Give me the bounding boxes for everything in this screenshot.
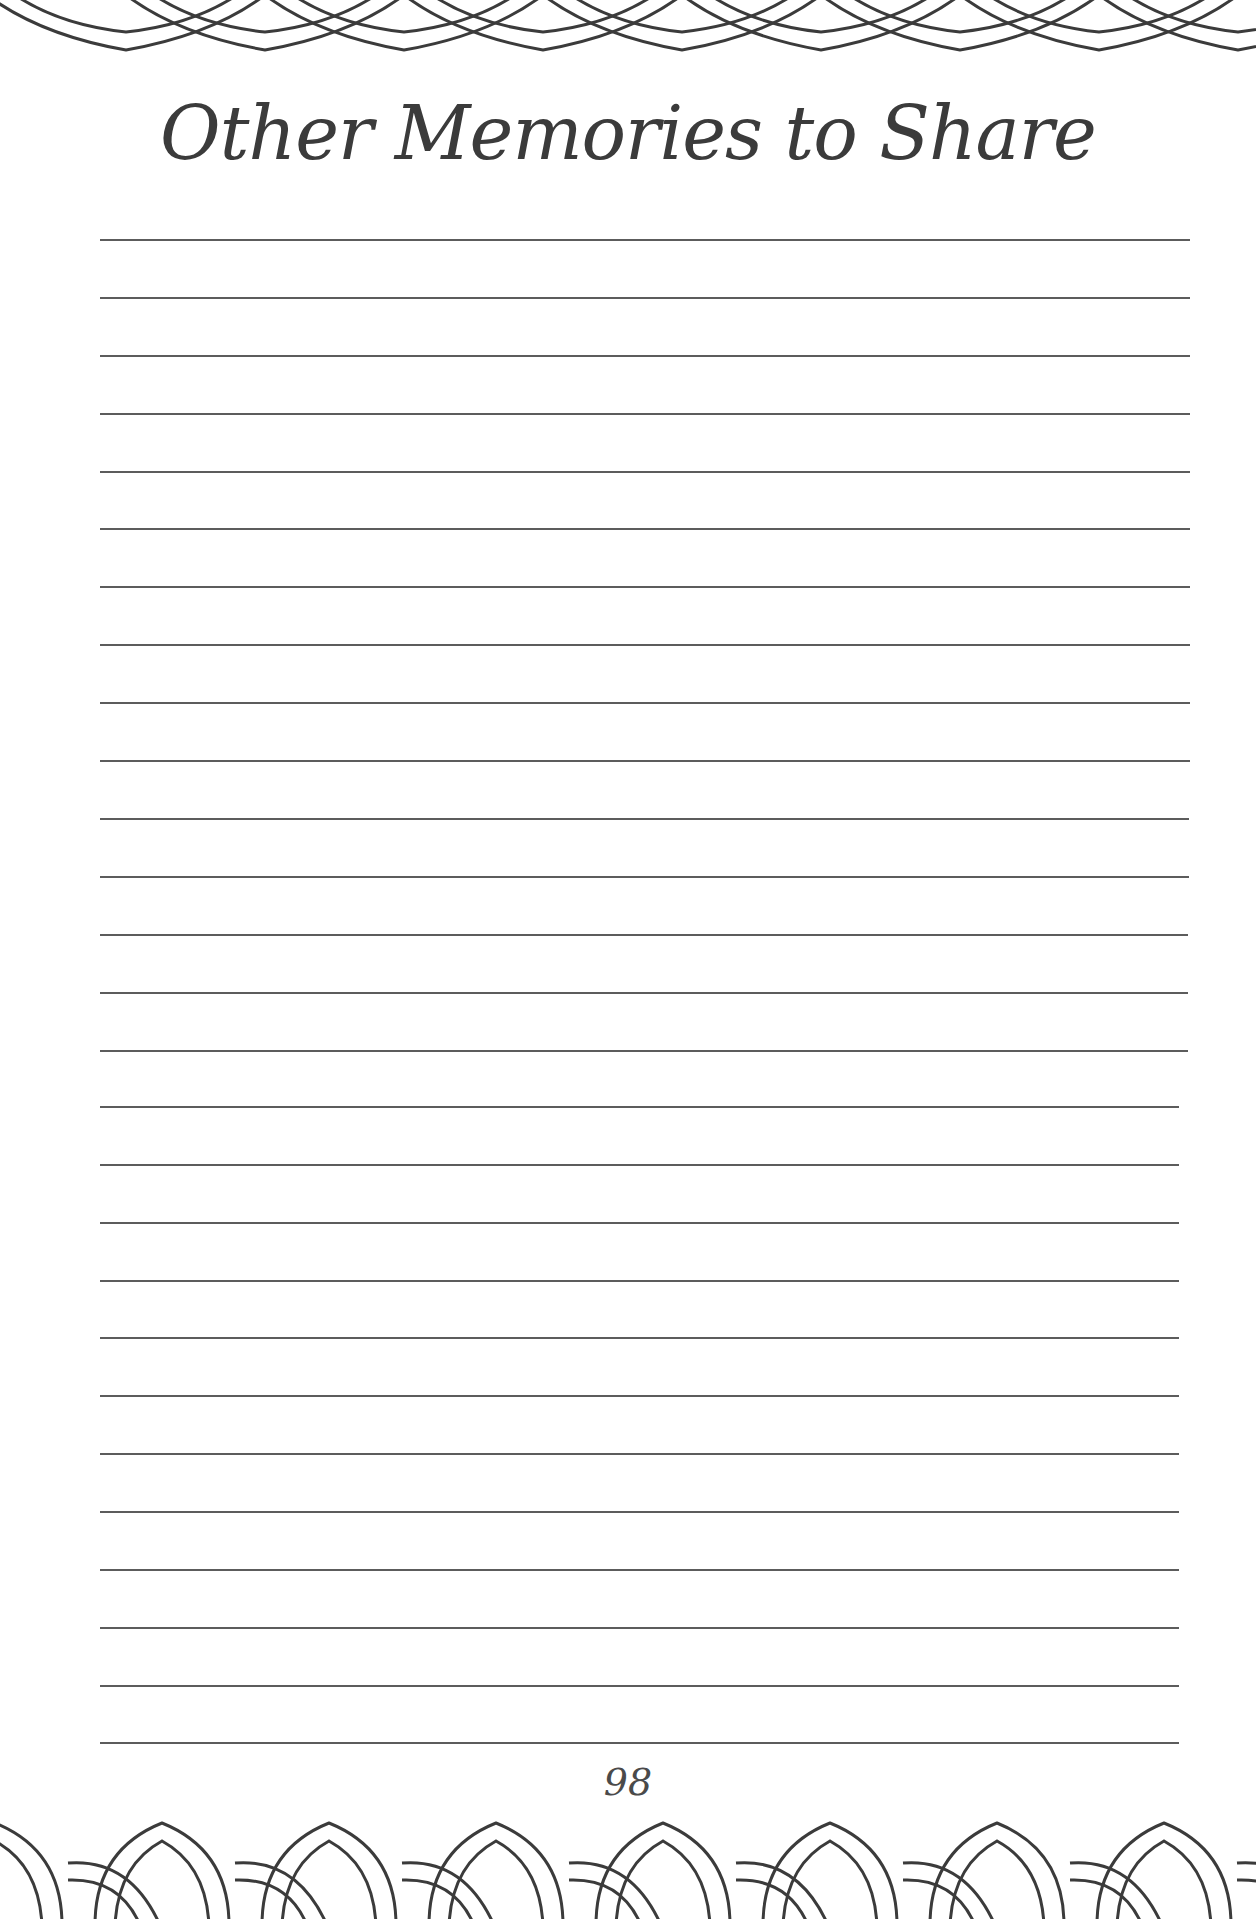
- writing-line: [100, 1222, 1179, 1224]
- writing-line: [100, 413, 1190, 415]
- writing-line: [100, 297, 1190, 299]
- writing-line: [100, 1685, 1179, 1687]
- writing-line: [100, 1106, 1179, 1108]
- writing-line: [100, 586, 1190, 588]
- writing-line: [100, 1569, 1179, 1571]
- writing-line: [100, 644, 1190, 646]
- writing-line: [100, 876, 1189, 878]
- writing-line: [100, 992, 1188, 994]
- writing-line: [100, 1280, 1179, 1282]
- writing-line: [100, 1511, 1179, 1513]
- writing-line: [100, 1395, 1179, 1397]
- writing-line: [100, 1337, 1179, 1339]
- writing-line: [100, 1164, 1179, 1166]
- writing-line: [100, 818, 1189, 820]
- writing-line: [100, 760, 1190, 762]
- writing-line: [100, 702, 1190, 704]
- writing-lines: [100, 0, 1200, 1919]
- writing-line: [100, 239, 1190, 241]
- writing-line: [100, 934, 1188, 936]
- bottom-decorative-border: [0, 1810, 1256, 1919]
- writing-line: [100, 1742, 1179, 1744]
- page-number: 98: [0, 1760, 1256, 1804]
- writing-line: [100, 471, 1190, 473]
- writing-line: [100, 528, 1190, 530]
- writing-line: [100, 355, 1190, 357]
- writing-line: [100, 1050, 1188, 1052]
- writing-line: [100, 1627, 1179, 1629]
- writing-line: [100, 1453, 1179, 1455]
